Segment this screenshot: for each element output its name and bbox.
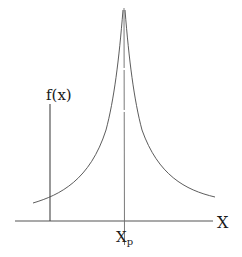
peak-label-main: X xyxy=(116,228,127,246)
peak-function-diagram: f(x) X Xp xyxy=(0,0,242,257)
curve-right-branch xyxy=(125,10,215,197)
peak-label-subscript: p xyxy=(127,236,133,247)
peak-position-label: Xp xyxy=(116,228,133,247)
peak-center-line xyxy=(124,8,125,245)
y-axis-label: f(x) xyxy=(46,86,72,104)
curve-left-branch xyxy=(33,10,123,203)
x-axis-label: X xyxy=(217,213,229,232)
